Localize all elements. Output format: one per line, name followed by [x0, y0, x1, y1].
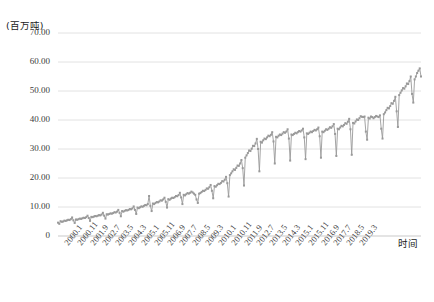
data-point-marker [249, 150, 251, 152]
data-point-marker [255, 142, 257, 144]
data-point-marker [135, 213, 137, 215]
data-point-marker [412, 102, 414, 104]
data-point-marker [319, 135, 321, 137]
data-point-marker [338, 128, 340, 130]
data-point-marker [417, 70, 419, 72]
data-point-marker [358, 117, 360, 119]
data-point-marker [348, 118, 350, 120]
plot-area [0, 0, 434, 302]
data-point-marker [194, 194, 196, 196]
data-point-marker [88, 217, 90, 219]
data-point-marker [178, 194, 180, 196]
data-point-marker [235, 167, 237, 169]
data-point-marker [149, 205, 151, 207]
data-point-marker [385, 109, 387, 111]
y-axis-tick-label: 0 [6, 230, 50, 240]
data-point-marker [388, 107, 390, 109]
data-point-marker [357, 119, 359, 121]
data-point-marker [405, 85, 407, 87]
data-point-marker [401, 89, 403, 91]
data-point-marker [228, 196, 230, 198]
data-point-marker [261, 142, 263, 144]
data-point-marker [224, 179, 226, 181]
data-point-marker [211, 190, 213, 192]
data-point-marker [305, 158, 307, 160]
data-point-marker [414, 78, 416, 80]
data-point-marker [419, 67, 421, 69]
data-point-marker [147, 203, 149, 205]
data-point-marker [226, 182, 228, 184]
data-point-marker [420, 76, 422, 78]
data-point-marker [380, 128, 382, 130]
data-point-marker [148, 195, 150, 197]
data-point-marker [120, 215, 122, 217]
y-axis-tick-label: 20.00 [6, 172, 50, 182]
data-point-marker [349, 128, 351, 130]
data-point-marker [251, 148, 253, 150]
data-point-marker [351, 154, 353, 156]
data-point-marker [303, 136, 305, 138]
data-point-marker [238, 165, 240, 167]
data-point-marker [240, 159, 242, 161]
data-point-marker [378, 116, 380, 118]
data-point-marker [179, 192, 181, 194]
data-point-marker [181, 203, 183, 205]
data-point-marker [271, 131, 273, 133]
data-point-marker [210, 184, 212, 186]
data-point-marker [399, 92, 401, 94]
data-point-marker [131, 207, 133, 209]
data-point-marker [253, 145, 255, 147]
data-point-marker [396, 110, 398, 112]
data-point-marker [246, 154, 248, 156]
data-point-marker [272, 140, 274, 142]
data-point-marker [317, 127, 319, 129]
data-point-marker [87, 215, 89, 217]
data-point-marker [239, 163, 241, 165]
data-point-marker [70, 218, 72, 220]
data-point-marker [244, 157, 246, 159]
data-point-marker [415, 76, 417, 78]
data-point-marker [285, 131, 287, 133]
data-point-marker [262, 139, 264, 141]
data-point-marker [320, 157, 322, 159]
data-point-marker [71, 216, 73, 218]
data-point-marker [392, 103, 394, 105]
data-point-marker [133, 205, 135, 207]
data-point-marker [382, 138, 384, 140]
data-point-marker [230, 172, 232, 174]
data-point-marker [265, 138, 267, 140]
data-point-marker [134, 209, 136, 211]
data-point-marker [180, 196, 182, 198]
data-point-marker [334, 133, 336, 135]
data-point-marker [343, 124, 345, 126]
data-point-marker [163, 197, 165, 199]
data-point-marker [117, 209, 119, 211]
series-line [58, 68, 421, 223]
data-point-marker [234, 169, 236, 171]
data-point-marker [316, 128, 318, 130]
data-point-marker [151, 210, 153, 212]
y-axis-tick-label: 60.00 [6, 56, 50, 66]
data-point-marker [196, 198, 198, 200]
data-point-marker [394, 96, 396, 98]
data-point-marker [416, 72, 418, 74]
data-point-marker [393, 100, 395, 102]
data-point-marker [274, 163, 276, 165]
data-point-marker [383, 113, 385, 115]
data-point-marker [366, 139, 368, 141]
data-point-marker [229, 174, 231, 176]
data-point-marker [72, 219, 74, 221]
data-point-marker [231, 170, 233, 172]
data-point-marker [225, 176, 227, 178]
data-point-marker [289, 160, 291, 162]
data-point-marker [335, 155, 337, 157]
data-point-marker [116, 211, 118, 213]
y-axis-tick-label: 10.00 [6, 201, 50, 211]
data-point-marker [270, 134, 272, 136]
data-point-marker [166, 207, 168, 209]
data-point-marker [222, 180, 224, 182]
data-point-marker [287, 128, 289, 130]
data-point-marker [403, 88, 405, 90]
y-axis-tick-label: 50.00 [6, 85, 50, 95]
data-point-marker [407, 83, 409, 85]
